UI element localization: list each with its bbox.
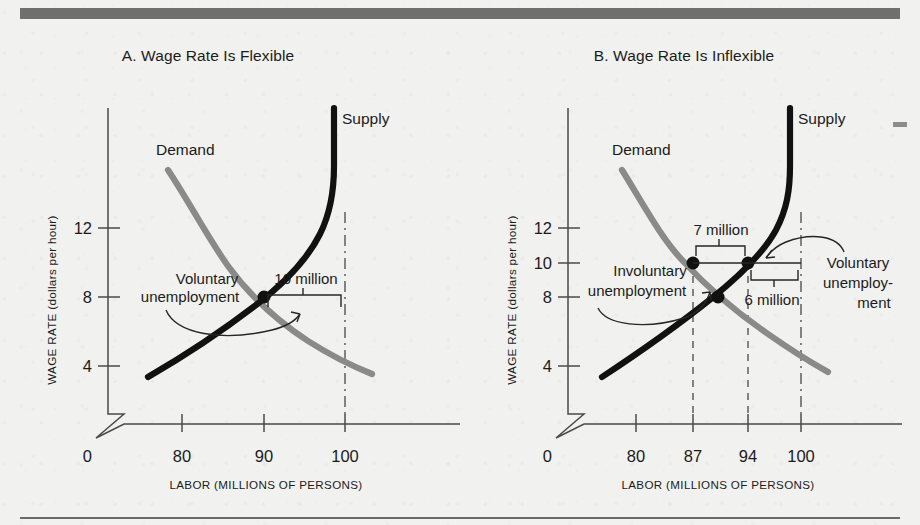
panel-b-upper-brace — [696, 239, 745, 256]
panel-a-y-ticks — [98, 228, 120, 366]
panel-a-ytick-8: 8 — [83, 288, 92, 306]
panel-b-x-axis-label: LABOR (MILLIONS OF PERSONS) — [621, 478, 814, 491]
panel-a-voluntary-line2: unemployment — [141, 288, 240, 305]
panel-a-origin-label: 0 — [83, 447, 92, 465]
panel-a-xtick-100: 100 — [331, 447, 359, 465]
panel-b-ytick-10: 10 — [534, 254, 552, 272]
panel-b-demand-label: Demand — [612, 141, 671, 158]
panel-b-equilibrium-dot — [712, 291, 725, 304]
panel-a-ytick-4: 4 — [83, 357, 92, 375]
panel-a: A. Wage Rate Is Flexible 12 8 4 0 80 90 — [0, 0, 460, 525]
panel-a-gap-brace — [268, 288, 341, 307]
panel-b-voluntary-line2: unemploy- — [823, 274, 893, 291]
panel-b: B. Wage Rate Is Inflexible 12 10 8 4 0 — [460, 0, 920, 525]
panel-b-y-axis-label: WAGE RATE (dollars per hour) — [505, 215, 518, 385]
panel-b-origin-label: 0 — [543, 447, 552, 465]
panel-b-xtick-100: 100 — [787, 447, 815, 465]
panel-b-ytick-8: 8 — [543, 288, 552, 306]
panel-a-plot: 12 8 4 0 80 90 100 LABOR (MILLIONS OF PE… — [0, 0, 460, 525]
panel-a-ytick-12: 12 — [74, 219, 92, 237]
figure-page: A. Wage Rate Is Flexible 12 8 4 0 80 90 — [0, 0, 920, 525]
panel-b-plot: 12 10 8 4 0 80 87 94 100 LABOR (MILLIONS… — [460, 0, 920, 525]
panel-a-xtick-80: 80 — [173, 447, 191, 465]
panel-a-supply-label: Supply — [342, 110, 390, 127]
panel-a-voluntary-arrowhead — [291, 312, 300, 322]
panel-b-supply-label: Supply — [798, 110, 846, 127]
panel-b-ytick-4: 4 — [543, 357, 552, 375]
panel-b-x-ticks — [636, 414, 801, 432]
panel-a-x-ticks — [182, 414, 345, 432]
panel-b-upper-brace-label: 7 million — [693, 221, 748, 238]
panel-b-ytick-12: 12 — [534, 219, 552, 237]
panel-a-gap-brace-label: 10 million — [274, 270, 337, 287]
panel-a-demand-label: Demand — [156, 141, 215, 158]
panel-b-lower-brace-label: 6 million — [744, 291, 799, 308]
panel-a-xtick-90: 90 — [255, 447, 273, 465]
panel-a-voluntary-line1: Voluntary — [176, 270, 239, 287]
panel-b-xtick-80: 80 — [627, 447, 645, 465]
panel-b-xtick-87: 87 — [684, 447, 702, 465]
panel-b-axis-with-break — [556, 108, 902, 438]
panel-b-voluntary-arrowhead — [766, 250, 775, 258]
panel-b-voluntary-line3: ment — [857, 294, 891, 311]
panel-b-y-ticks — [558, 228, 580, 366]
panel-a-x-axis-label: LABOR (MILLIONS OF PERSONS) — [169, 478, 362, 491]
panel-b-lower-brace — [751, 270, 798, 287]
panel-b-xtick-94: 94 — [739, 447, 757, 465]
panel-b-involuntary-line2: unemployment — [588, 282, 687, 299]
panel-a-y-axis-label: WAGE RATE (dollars per hour) — [45, 215, 58, 385]
panel-b-voluntary-line1: Voluntary — [827, 254, 890, 271]
panel-b-involuntary-line1: Involuntary — [613, 262, 687, 279]
